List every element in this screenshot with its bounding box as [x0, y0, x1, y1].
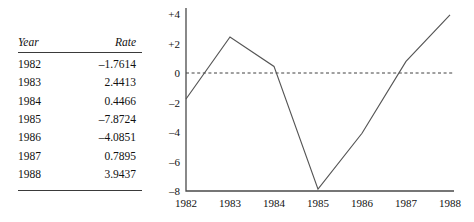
cell-year: 1984: [18, 92, 61, 110]
x-axis-tick-labels: 1982198319841985198619871988: [175, 197, 462, 209]
table-row: 1987 0.7895: [18, 147, 142, 165]
cell-rate: –1.7614: [61, 53, 142, 74]
rate-line-chart: +4+20–2–4–6–8 19821983198419851986198719…: [152, 0, 474, 222]
table-body: 1982 –1.7614 1983 2.4413 1984 0.4466 198…: [18, 53, 142, 186]
chart-axes: [186, 8, 454, 191]
y-axis-tick-label: –4: [168, 126, 181, 138]
column-header-year: Year: [18, 36, 61, 53]
cell-year: 1987: [18, 147, 61, 165]
table-row: 1982 –1.7614: [18, 53, 142, 74]
cell-rate: –7.8724: [61, 111, 142, 129]
rate-table-grid: Year Rate 1982 –1.7614 1983 2.4413 1984 …: [18, 36, 142, 186]
x-axis-tick-label: 1983: [219, 197, 242, 209]
column-header-rate: Rate: [61, 36, 142, 53]
cell-year: 1988: [18, 166, 61, 186]
cell-rate: 0.7895: [61, 147, 142, 165]
rate-table: Year Rate 1982 –1.7614 1983 2.4413 1984 …: [18, 36, 142, 186]
table-header: Year Rate: [18, 36, 142, 53]
table-header-row: Year Rate: [18, 36, 142, 53]
x-axis-tick-label: 1982: [175, 197, 197, 209]
table-row: 1988 3.9437: [18, 166, 142, 186]
table-row: 1983 2.4413: [18, 74, 142, 92]
x-axis-tick-label: 1988: [439, 197, 462, 209]
cell-rate: 0.4466: [61, 92, 142, 110]
x-axis-tick-label: 1987: [395, 197, 418, 209]
table-row: 1986 –4.0851: [18, 129, 142, 147]
cell-year: 1982: [18, 53, 61, 74]
y-axis-tick-label: 0: [175, 67, 181, 79]
cell-year: 1986: [18, 129, 61, 147]
table-row: 1984 0.4466: [18, 92, 142, 110]
cell-rate: 2.4413: [61, 74, 142, 92]
y-axis-tick-label: –6: [168, 156, 181, 168]
table-row: 1985 –7.8724: [18, 111, 142, 129]
cell-year: 1983: [18, 74, 61, 92]
chart-svg: +4+20–2–4–6–8 19821983198419851986198719…: [152, 0, 474, 222]
cell-rate: –4.0851: [61, 129, 142, 147]
rate-series-line: [186, 15, 450, 189]
cell-rate: 3.9437: [61, 166, 142, 186]
y-axis-tick-labels: +4+20–2–4–6–8: [168, 8, 181, 197]
y-axis-tick-label: +4: [168, 8, 180, 20]
y-axis-tick-label: –2: [168, 97, 180, 109]
x-axis-tick-label: 1985: [307, 197, 330, 209]
cell-year: 1985: [18, 111, 61, 129]
table-bottom-rule: [18, 190, 142, 191]
x-axis-tick-label: 1984: [263, 197, 286, 209]
y-axis-tick-label: –8: [168, 185, 181, 197]
y-axis-tick-label: +2: [168, 38, 180, 50]
x-axis-tick-label: 1986: [351, 197, 374, 209]
